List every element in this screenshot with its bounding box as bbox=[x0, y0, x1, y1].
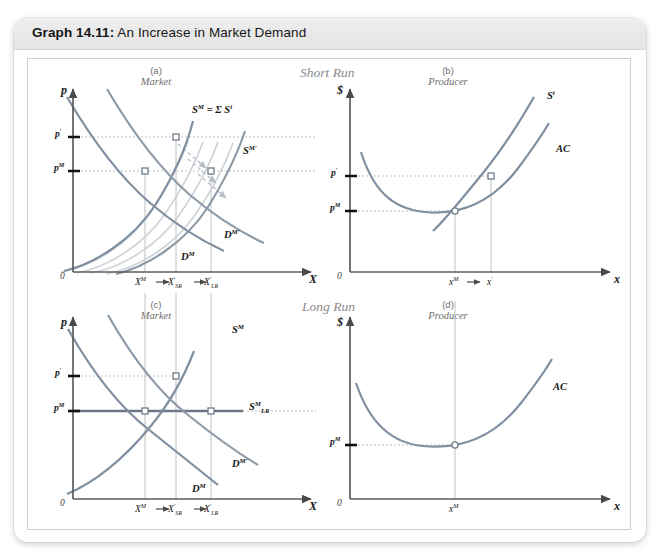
panel-c-x-axis-label: X bbox=[309, 499, 317, 514]
panel-b-equilibria bbox=[452, 173, 494, 214]
panel-c-label-demand-market: DM bbox=[192, 483, 206, 494]
panel-a-y-tick-0: p′ bbox=[55, 129, 62, 139]
panel-c-y-axis-label: p bbox=[61, 315, 67, 330]
panel-a-label-demand-market-prime: DM′ bbox=[224, 229, 240, 240]
panel-c-x-tick-0: XM bbox=[135, 504, 146, 514]
panel-c-x-tick-2: X′LR bbox=[204, 504, 218, 514]
figure-number: Graph 14.11: bbox=[32, 25, 114, 40]
panel-d-y-axis-label: $ bbox=[337, 315, 343, 330]
panel-b-y-tick-0: p′ bbox=[331, 168, 338, 178]
panel-c-y-tick-0: p′ bbox=[55, 368, 62, 378]
panel-b-x-tick-1: x′ bbox=[487, 277, 493, 287]
panel-b-x-tick-0: xM bbox=[449, 277, 458, 287]
panel-d-y-tick-0: pM bbox=[330, 437, 340, 447]
panel-c-label-supply-market-longrun: SMLR bbox=[249, 401, 269, 412]
panel-c-x-tick-1: X′SR bbox=[168, 504, 182, 514]
panel-d-origin: 0 bbox=[337, 498, 342, 508]
panel-b-x-axis-label: x bbox=[614, 272, 620, 287]
panel-a-x-tick-0: XM bbox=[135, 277, 146, 287]
panel-a-label-supply-market-prime: SM′ bbox=[243, 145, 257, 156]
curve-demand-market-prime-c bbox=[108, 315, 258, 465]
panel-d-x-axis-label: x bbox=[614, 499, 620, 514]
panel-b-guidelines bbox=[455, 176, 491, 272]
panel-c-guidelines bbox=[145, 293, 211, 499]
curve-supply-market-a bbox=[64, 121, 193, 271]
panel-a-x-axis-label: X bbox=[309, 272, 317, 287]
panel-b-y-ticks bbox=[345, 176, 357, 211]
panel-d-equilibria bbox=[452, 442, 458, 448]
panel-a-label-demand-market: DM bbox=[181, 251, 195, 262]
panel-a-y-tick-1: pM bbox=[54, 163, 64, 173]
panel-a-x-tick-1: X′SR bbox=[168, 277, 182, 287]
panel-c-y-tick-1: pM bbox=[54, 403, 64, 413]
figure-header-bar: Graph 14.11: An Increase in Market Deman… bbox=[14, 18, 646, 50]
curve-demand-market-c bbox=[68, 329, 218, 485]
panel-d-x-tick-0: xM bbox=[449, 504, 458, 514]
figure-frame: Short Run Long Run (a) Market bbox=[27, 58, 631, 530]
panel-c-plot bbox=[28, 293, 318, 528]
panel-c-label-demand-market-prime: DM′ bbox=[232, 458, 248, 469]
panel-b-plot bbox=[320, 59, 630, 289]
curve-average-cost-b bbox=[361, 123, 549, 213]
panel-b-label-supply-firm: Si bbox=[547, 90, 555, 101]
panel-d-plot bbox=[320, 293, 630, 528]
panel-a-plot bbox=[28, 59, 318, 289]
figure-title: An Increase in Market Demand bbox=[114, 25, 306, 40]
curve-average-cost-d bbox=[356, 359, 552, 447]
panel-a-equilibria bbox=[142, 134, 214, 174]
panel-a-price-guides bbox=[73, 137, 316, 171]
curve-demand-market-prime-a bbox=[107, 89, 264, 243]
panel-a-y-ticks bbox=[68, 137, 80, 171]
panel-a-y-axis-label: p bbox=[61, 83, 67, 98]
panel-c-origin: 0 bbox=[60, 498, 65, 508]
figure-plate: Graph 14.11: An Increase in Market Deman… bbox=[14, 18, 646, 542]
panel-b-y-tick-1: pM bbox=[330, 203, 340, 213]
panel-b-origin: 0 bbox=[337, 271, 342, 281]
screenshot-page: Graph 14.11: An Increase in Market Deman… bbox=[0, 0, 668, 559]
panel-c-price-guides bbox=[73, 376, 316, 411]
panel-a-origin: 0 bbox=[60, 271, 65, 281]
panel-d-label-average-cost: AC bbox=[553, 381, 567, 392]
panel-a-x-tick-2: X′LR bbox=[204, 277, 218, 287]
panel-b-label-average-cost: AC bbox=[556, 143, 570, 154]
panel-c-y-ticks bbox=[68, 376, 80, 411]
panel-a-label-supply-market: SM = Σ Si bbox=[192, 104, 232, 115]
figure-caption: Graph 14.11: An Increase in Market Deman… bbox=[32, 25, 306, 40]
panel-b-y-axis-label: $ bbox=[337, 83, 343, 98]
panel-c-label-supply-market: SM bbox=[232, 324, 244, 335]
